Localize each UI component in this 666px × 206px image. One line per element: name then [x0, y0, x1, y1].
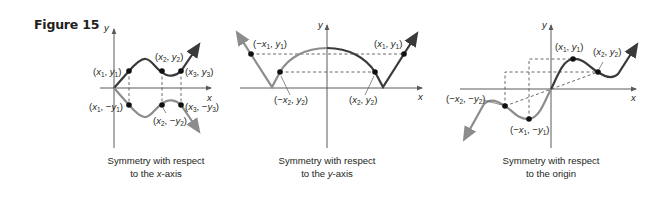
leader-line: [365, 76, 374, 95]
point-label-x2-y2: (x2, y2): [349, 94, 377, 106]
point-label-x2-y2: (x2, y2): [155, 51, 183, 63]
caption-line-2: to the origin: [471, 167, 631, 180]
leader-line: [163, 108, 166, 113]
point-label-x3-neg-y3: (x3, −y3): [185, 101, 219, 113]
caption-line-1: Symmetry with respect: [76, 154, 236, 167]
point-label-neg-x2-y2: (−x2, y2): [274, 94, 308, 106]
point-label-neg-x1-y1: (−x1, y1): [253, 38, 287, 50]
point-label-x2-neg-y2: (x2, −y2): [153, 115, 187, 127]
point-label-x3-y3: (x3, y3): [185, 66, 213, 78]
y-axis-label: y: [103, 22, 110, 33]
caption-x-axis-symmetry: Symmetry with respect to the x-axis: [76, 154, 236, 180]
curve-right: [327, 35, 416, 87]
caption-origin-symmetry: Symmetry with respect to the origin: [471, 154, 631, 180]
x-axis-label: x: [630, 92, 637, 103]
panel-y-axis-symmetry: y x (−x1, y1) (−x2, y2) (x2, y2) (x1, y1…: [238, 19, 424, 148]
point-label-x2-y2: (x2, y2): [593, 46, 621, 58]
caption-text: -axis: [162, 168, 182, 179]
caption-text: to the: [301, 168, 328, 179]
leader-line: [599, 62, 603, 69]
point-label-neg-x1-neg-y1: (−x1, −y1): [510, 124, 549, 136]
y-axis-label: y: [317, 19, 324, 30]
caption-line-2: to the y-axis: [247, 167, 407, 180]
caption-y-axis-symmetry: Symmetry with respect to the y-axis: [247, 154, 407, 180]
caption-text: to the: [130, 168, 157, 179]
caption-text: to the origin: [526, 168, 576, 179]
point-label-x1-y1: (x1, y1): [93, 66, 121, 78]
point-label-neg-x2-neg-y2: (−x2, −y2): [446, 93, 485, 105]
leader-line: [281, 76, 290, 95]
point-label-x1-neg-y1: (x1, −y1): [89, 101, 123, 113]
y-axis-label: y: [541, 19, 548, 30]
x-axis-label: x: [417, 91, 424, 102]
caption-text: -axis: [333, 168, 353, 179]
panel-origin-symmetry: y x (x1, y1) (x2, y2) (−x2, −y2) (−x1, −…: [446, 19, 637, 148]
caption-line-2: to the x-axis: [76, 167, 236, 180]
caption-line-1: Symmetry with respect: [471, 154, 631, 167]
point-label-x1-y1: (x1, y1): [374, 38, 402, 50]
point-label-x1-y1: (x1, y1): [555, 41, 583, 53]
panel-x-axis-symmetry: y x (x1, y1) (x2, y2) (x3, y3) (x1, −y1)…: [89, 22, 219, 148]
caption-line-1: Symmetry with respect: [247, 154, 407, 167]
